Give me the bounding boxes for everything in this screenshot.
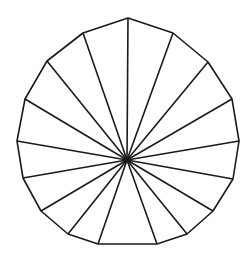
polygon-fan-diagram [0, 0, 250, 257]
spoke-line [127, 160, 157, 244]
spoke-line [68, 160, 127, 234]
spoke-line [127, 62, 208, 160]
spokes-group [17, 18, 239, 244]
center-point [125, 158, 130, 163]
spoke-line [47, 61, 127, 160]
polygon-fan-svg [0, 0, 250, 257]
spoke-line [127, 33, 173, 160]
spoke-line [83, 33, 127, 160]
spoke-line [98, 160, 127, 244]
spoke-line [127, 18, 128, 160]
spoke-line [127, 160, 187, 234]
